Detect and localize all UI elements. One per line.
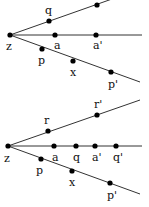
point: [51, 143, 56, 148]
point-label: r': [94, 98, 102, 111]
point: [46, 18, 51, 23]
point: [70, 58, 75, 63]
point-label: a: [54, 39, 61, 52]
ray-upper: [8, 100, 140, 146]
point: [107, 180, 112, 185]
point-origin: [5, 143, 10, 148]
point: [94, 112, 99, 117]
point-label: p: [38, 54, 45, 67]
point: [113, 143, 118, 148]
point-label: p': [107, 189, 117, 202]
point-label: z: [4, 152, 10, 165]
point: [38, 156, 43, 161]
geometry-diagram: zqaa'pxp'zrr'aqa'q'pxp': [0, 0, 149, 207]
point-label: x: [69, 176, 76, 189]
point-label: q: [45, 4, 52, 17]
point-label: z: [6, 40, 12, 53]
point-label: q': [113, 151, 123, 164]
diagram-top: zqaa'pxp': [6, 0, 142, 91]
point-label: p: [36, 164, 43, 177]
point: [108, 69, 113, 74]
point-label: a': [92, 151, 102, 164]
point-label: r: [44, 114, 50, 127]
point-label: q: [73, 151, 80, 164]
diagram-bottom: zrr'aqa'q'pxp': [4, 98, 142, 202]
point: [94, 2, 99, 7]
point: [92, 143, 97, 148]
point-label: a: [52, 151, 59, 164]
point: [73, 143, 78, 148]
point-label: p': [108, 78, 118, 91]
point: [45, 128, 50, 133]
point: [52, 32, 57, 37]
point-label: a': [93, 39, 103, 52]
point: [93, 32, 98, 37]
point-origin: [7, 32, 12, 37]
point: [69, 168, 74, 173]
point-label: x: [70, 66, 77, 79]
point: [39, 46, 44, 51]
